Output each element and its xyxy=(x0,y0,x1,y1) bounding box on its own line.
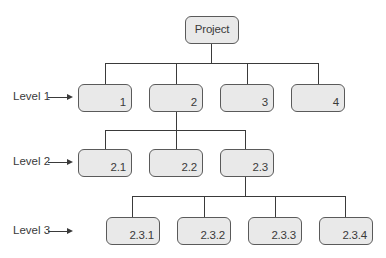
connector-to-2-3-3 xyxy=(275,196,276,217)
arrow-right-icon xyxy=(48,162,68,163)
connector-to-2-3-2 xyxy=(204,196,205,217)
node-label: 2.3.2 xyxy=(200,229,225,241)
connector-to-4 xyxy=(318,63,319,84)
node-3: 3 xyxy=(220,84,274,112)
node-label: 2 xyxy=(191,96,197,108)
connector-2-down xyxy=(176,111,177,130)
node-label: 2.1 xyxy=(111,161,126,173)
connector-level3-bus xyxy=(132,196,346,197)
connector-to-2 xyxy=(176,63,177,84)
node-label: 1 xyxy=(120,96,126,108)
connector-level1-bus xyxy=(105,63,319,64)
node-label: 2.2 xyxy=(182,161,197,173)
connector-to-2-1 xyxy=(105,130,106,149)
node-label: 3 xyxy=(262,96,268,108)
level-1-label: Level 1 xyxy=(13,90,50,102)
node-label: 2.3.3 xyxy=(271,229,296,241)
node-2: 2 xyxy=(149,84,203,112)
node-1: 1 xyxy=(78,84,132,112)
node-label: 2.3 xyxy=(253,161,268,173)
node-label: 2.3.1 xyxy=(129,229,154,241)
connector-2-3-down xyxy=(245,176,246,196)
node-2-3-1: 2.3.1 xyxy=(106,217,160,245)
connector-to-2-3 xyxy=(245,130,246,149)
connector-root-down xyxy=(211,43,212,63)
node-2-2: 2.2 xyxy=(149,149,203,177)
arrow-right-icon xyxy=(48,231,68,232)
node-4: 4 xyxy=(291,84,345,112)
node-2-3-2: 2.3.2 xyxy=(177,217,231,245)
node-label: 4 xyxy=(333,96,339,108)
node-2-3-4: 2.3.4 xyxy=(319,217,373,245)
wbs-diagram: Project Level 1 1 2 3 4 Level 2 2.1 2.2 … xyxy=(0,0,386,258)
connector-to-2-3-1 xyxy=(132,196,133,217)
connector-to-3 xyxy=(247,63,248,84)
connector-to-1 xyxy=(105,63,106,84)
connector-to-2-2 xyxy=(176,130,177,149)
level-2-label: Level 2 xyxy=(13,155,50,167)
node-label: Project xyxy=(186,17,238,42)
arrow-right-icon xyxy=(48,97,68,98)
node-2-3-3: 2.3.3 xyxy=(248,217,302,245)
node-project: Project xyxy=(185,16,239,44)
node-2-3: 2.3 xyxy=(220,149,274,177)
connector-to-2-3-4 xyxy=(345,196,346,217)
node-label: 2.3.4 xyxy=(342,229,367,241)
node-2-1: 2.1 xyxy=(78,149,132,177)
level-3-label: Level 3 xyxy=(13,224,50,236)
